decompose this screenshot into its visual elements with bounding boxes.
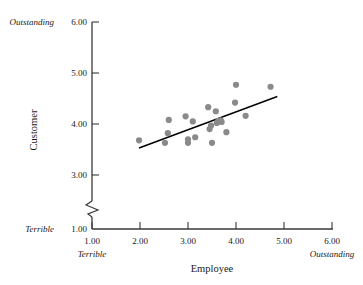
x-anchor-low-label: Terrible (78, 249, 107, 259)
y-tick-label-6: 6.00 (71, 17, 87, 27)
data-point (233, 82, 239, 88)
data-point (219, 119, 225, 125)
y-axis-break-icon (86, 201, 98, 217)
x-axis-title: Employee (191, 263, 234, 274)
y-tick-label-5: 5.00 (71, 68, 87, 78)
y-tick-label-4: 4.00 (71, 119, 87, 129)
data-point (165, 130, 171, 136)
x-tick-label-4: 4.00 (228, 236, 244, 246)
data-point (267, 84, 273, 90)
y-tick-labels: 6.00 5.00 4.00 3.00 1.00 (71, 17, 87, 234)
x-tick-labels: 1.00 2.00 3.00 4.00 5.00 6.00 (84, 236, 340, 246)
data-point (162, 140, 168, 146)
data-point (192, 134, 198, 140)
y-tick-marks (92, 22, 99, 175)
data-point (209, 140, 215, 146)
x-tick-label-5: 5.00 (276, 236, 292, 246)
y-axis (86, 22, 98, 229)
y-anchor-high-label: Outstanding (9, 17, 54, 27)
data-point (190, 118, 196, 124)
data-point (183, 113, 189, 119)
x-anchor-high-label: Outstanding (310, 249, 355, 259)
data-point (213, 108, 219, 114)
data-point (136, 137, 142, 143)
x-tick-label-2: 2.00 (132, 236, 148, 246)
data-point (166, 117, 172, 123)
y-axis-title: Customer (28, 109, 39, 150)
data-point (223, 129, 229, 135)
data-points-group (136, 82, 274, 146)
data-point (208, 122, 214, 128)
plot-canvas: 6.00 5.00 4.00 3.00 1.00 Outstanding Ter… (0, 0, 363, 285)
y-tick-label-1: 1.00 (71, 224, 87, 234)
data-point (185, 140, 191, 146)
data-point (205, 104, 211, 110)
scatter-plot-figure: 6.00 5.00 4.00 3.00 1.00 Outstanding Ter… (0, 0, 363, 285)
x-tick-label-3: 3.00 (180, 236, 196, 246)
data-point (243, 113, 249, 119)
x-axis-anchor-labels: Terrible Outstanding (78, 249, 355, 259)
y-tick-label-3: 3.00 (71, 170, 87, 180)
y-anchor-low-label: Terrible (25, 224, 54, 234)
x-tick-label-6: 6.00 (324, 236, 340, 246)
x-tick-marks (92, 222, 332, 229)
x-tick-label-1: 1.00 (84, 236, 100, 246)
data-point (232, 99, 238, 105)
